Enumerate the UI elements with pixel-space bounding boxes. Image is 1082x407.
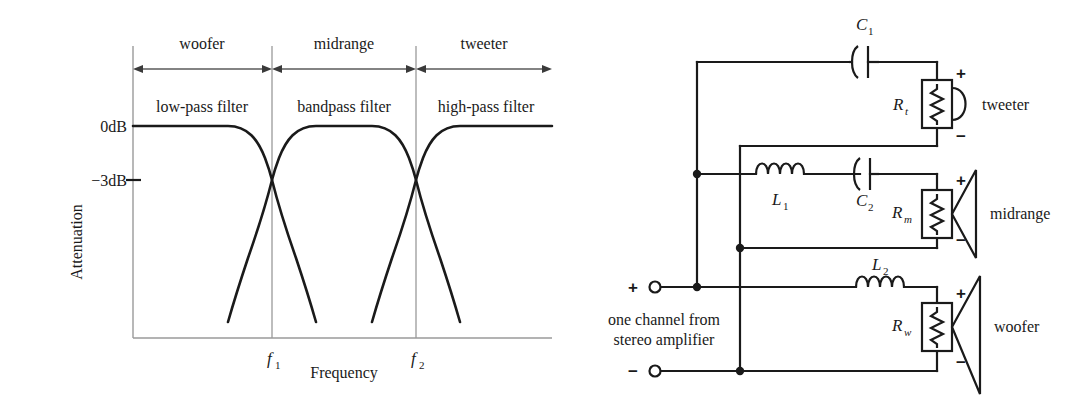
capacitor-C1-subscript: 1: [868, 25, 874, 37]
x-tick-f1-letter: f: [267, 349, 274, 368]
x-tick-f1-subscript: 1: [275, 359, 281, 371]
terminal-minus-post[interactable]: [650, 366, 661, 377]
inductor-L2-letter: L: [871, 255, 881, 274]
inductor-L1-subscript: 1: [783, 200, 789, 212]
midrange-minus-sign: −: [956, 231, 966, 250]
x-tick-f1: f 1: [267, 349, 281, 371]
capacitor-C2-label: C 2: [856, 191, 874, 213]
arrowhead-left-midrange: [272, 65, 282, 73]
inductor-L1-label: L 1: [771, 190, 789, 212]
terminal-plus-post[interactable]: [650, 282, 661, 293]
resistor-Rw-subscript: w: [904, 326, 912, 338]
source-caption-line1: one channel from: [608, 311, 721, 328]
resistor-Rm-label: R m: [891, 203, 912, 225]
junction-plus-terminal: [693, 283, 701, 291]
y-tick-0db: 0dB: [100, 118, 127, 135]
crossover-circuit-diagram: C 1 R t + − tweeter L 1: [560, 0, 1082, 407]
woofer-plus-sign: +: [956, 284, 966, 303]
resistor-Rt-letter: R: [892, 95, 904, 114]
arrowhead-right-tweeter: [542, 65, 552, 73]
speaker-label-midrange: midrange: [990, 205, 1050, 223]
resistor-Rm-subscript: m: [904, 213, 912, 225]
band-label-midrange: midrange: [314, 35, 374, 53]
inductor-L2-symbol: [856, 277, 907, 288]
x-axis-title: Frequency: [310, 364, 378, 382]
speaker-label-tweeter: tweeter: [982, 96, 1030, 113]
arrowhead-right-midrange: [406, 65, 416, 73]
resistor-Rm-letter: R: [891, 203, 903, 222]
terminal-plus-sign: +: [628, 278, 638, 297]
filter-label-bandpass: bandpass filter: [297, 98, 391, 116]
inductor-L1-symbol: [756, 164, 807, 175]
curve-low-pass-filter: [133, 126, 316, 322]
resistor-Rw-label: R w: [891, 316, 912, 338]
inductor-L1-letter: L: [771, 190, 781, 209]
capacitor-C2-letter: C: [856, 191, 868, 210]
resistor-Rt-subscript: t: [905, 105, 909, 117]
x-tick-f2-letter: f: [411, 349, 418, 368]
figure-root: woofer midrange tweeter low-pass filter …: [0, 0, 1082, 407]
y-tick-minus3db: −3dB: [91, 172, 127, 189]
x-tick-f2-subscript: 2: [419, 359, 425, 371]
y-axis-title: Attenuation: [68, 204, 85, 280]
inductor-L2-label: L 2: [871, 255, 889, 277]
inductor-L2-subscript: 2: [883, 265, 889, 277]
resistor-Rw-letter: R: [891, 316, 903, 335]
woofer-minus-sign: −: [956, 353, 966, 372]
speaker-tweeter-symbol: [952, 88, 966, 120]
arrowhead-right-woofer: [262, 65, 272, 73]
resistor-Rt-label: R t: [892, 95, 909, 117]
resistor-Rt-symbol: [922, 80, 952, 128]
band-label-tweeter: tweeter: [460, 35, 508, 52]
capacitor-C1-letter: C: [856, 15, 868, 34]
terminal-minus-sign: −: [628, 362, 638, 381]
filter-label-highpass: high-pass filter: [438, 98, 535, 116]
arrowhead-left-woofer: [133, 65, 143, 73]
junction-minus-midrange: [736, 244, 744, 252]
crossover-response-chart: woofer midrange tweeter low-pass filter …: [0, 0, 560, 407]
curve-high-pass-filter: [372, 126, 552, 322]
tweeter-plus-sign: +: [956, 64, 966, 83]
capacitor-C2-subscript: 2: [868, 201, 874, 213]
resistor-Rm-symbol: [922, 190, 952, 238]
junction-plus-midrange: [693, 170, 701, 178]
resistor-Rw-symbol: [922, 303, 952, 351]
band-span-arrows: [133, 65, 552, 73]
filter-label-lowpass: low-pass filter: [156, 98, 249, 116]
tweeter-minus-sign: −: [956, 127, 966, 146]
capacitor-C1-label: C 1: [856, 15, 874, 37]
capacitor-C1-symbol: [850, 46, 878, 78]
arrowhead-left-tweeter: [416, 65, 426, 73]
source-caption-line2: stereo amplifier: [614, 331, 716, 349]
x-tick-f2: f 2: [411, 349, 425, 371]
speaker-label-woofer: woofer: [994, 318, 1040, 335]
band-label-woofer: woofer: [179, 35, 225, 52]
midrange-plus-sign: +: [956, 171, 966, 190]
junction-minus-terminal: [736, 367, 744, 375]
